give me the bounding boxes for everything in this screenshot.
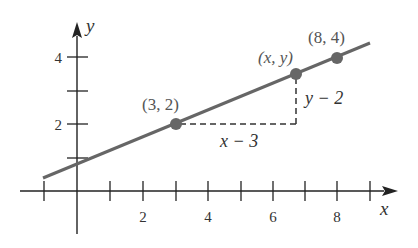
x-tick-label-6: 6 [269, 209, 277, 225]
x-tick-label-2: 2 [139, 209, 147, 225]
point-3-2 [170, 118, 182, 130]
line-through-two-points-diagram: 2 4 6 8 x 4 2 y x − 3 y − 2 (3, 2) (x, y… [0, 0, 418, 248]
y-tick-label-2: 2 [55, 117, 63, 133]
run-label: x − 3 [219, 131, 258, 151]
line-graph [43, 43, 370, 178]
y-axis-label: y [84, 15, 95, 36]
x-tick-label-8: 8 [333, 209, 341, 225]
point-label-x-y: (x, y) [258, 48, 293, 67]
point-8-4 [331, 52, 343, 64]
x-axis-label: x [379, 198, 389, 219]
x-axis-arrow-icon [382, 186, 398, 196]
x-tick-label-4: 4 [204, 209, 212, 225]
y-tick-label-4: 4 [55, 50, 63, 66]
point-x-y [290, 68, 302, 80]
y-axis-arrow-icon [72, 22, 82, 38]
point-label-3-2: (3, 2) [142, 95, 179, 114]
rise-label: y − 2 [303, 88, 343, 108]
points: (3, 2) (x, y) (8, 4) [142, 28, 345, 130]
y-axis: 4 2 y [55, 15, 96, 234]
point-label-8-4: (8, 4) [308, 28, 345, 47]
